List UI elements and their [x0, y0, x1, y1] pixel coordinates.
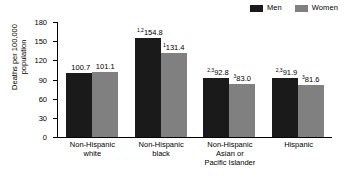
- plot-area: 1801501209060300 100.7101.11,2154.81131.…: [57, 22, 332, 137]
- bar-rect: [229, 84, 255, 137]
- bar-groups: 100.7101.11,2154.81131.42,392.8383.02,39…: [58, 22, 332, 137]
- y-tick-0: 0: [53, 137, 57, 138]
- category-label-line-1: Non-Hispanic: [58, 140, 127, 149]
- footnote-marker: 1: [163, 42, 166, 48]
- bar-pair: 2,391.9381.6: [272, 22, 324, 137]
- y-tick-label-0: 0: [25, 134, 47, 142]
- category-label-1: Non-Hispanicwhite: [58, 140, 127, 167]
- bar-pair: 2,392.8383.0: [203, 22, 255, 137]
- bar-group-1: 100.7101.1: [58, 22, 127, 137]
- y-tick-30: 30: [53, 118, 57, 119]
- bar-men-4[interactable]: 2,391.9: [272, 22, 298, 137]
- footnote-marker: 2,3: [207, 66, 214, 72]
- bar-rect: [135, 38, 161, 137]
- bar-rect: [66, 73, 92, 137]
- bar-group-3: 2,392.8383.0: [195, 22, 264, 137]
- bar-rect: [92, 72, 118, 137]
- y-tick-label-120: 120: [25, 57, 47, 65]
- bar-chart: Men Women Deaths per 100,000 population …: [0, 0, 344, 178]
- bar-value-label: 2,392.8: [207, 69, 229, 77]
- y-tick-120: 120: [53, 60, 57, 61]
- bar-value-label: 101.1: [96, 63, 115, 71]
- bar-value-label: 100.7: [71, 64, 90, 72]
- footnote-marker: 1,2: [137, 27, 144, 33]
- y-tick-90: 90: [53, 80, 57, 81]
- y-tick-label-60: 60: [25, 95, 47, 103]
- legend-item-men: Men: [250, 4, 282, 12]
- footnote-marker: 2,3: [276, 67, 283, 73]
- legend-label-women: Women: [312, 4, 338, 12]
- bar-women-3[interactable]: 383.0: [229, 22, 255, 137]
- category-label-3: Non-HispanicAsian orPacific Islander: [196, 140, 265, 167]
- category-label-line-1: Non-Hispanic: [127, 140, 196, 149]
- legend-swatch-women-icon: [295, 5, 308, 12]
- bar-value-label: 383.0: [234, 75, 251, 83]
- x-axis-category-labels: Non-HispanicwhiteNon-HispanicblackNon-Hi…: [58, 140, 333, 167]
- bar-pair: 1,2154.81131.4: [135, 22, 187, 137]
- bar-rect: [272, 78, 298, 137]
- bar-group-4: 2,391.9381.6: [264, 22, 333, 137]
- y-tick-label-180: 180: [25, 19, 47, 27]
- chart-legend: Men Women: [250, 4, 338, 12]
- bar-women-4[interactable]: 381.6: [298, 22, 324, 137]
- category-label-line-2: Asian or: [196, 149, 265, 158]
- category-label-line-1: Non-Hispanic: [196, 140, 265, 149]
- bar-value-label: 1,2154.8: [137, 29, 163, 37]
- bar-rect: [298, 85, 324, 137]
- bar-men-3[interactable]: 2,392.8: [203, 22, 229, 137]
- bar-rect: [203, 78, 229, 137]
- bar-women-1[interactable]: 101.1: [92, 22, 118, 137]
- bar-value-label: 2,391.9: [276, 69, 298, 77]
- legend-item-women: Women: [295, 4, 338, 12]
- bar-pair: 100.7101.1: [66, 22, 118, 137]
- bar-women-2[interactable]: 1131.4: [161, 22, 187, 137]
- y-tick-180: 180: [53, 22, 57, 23]
- y-tick-label-30: 30: [25, 114, 47, 122]
- y-tick-label-90: 90: [25, 76, 47, 84]
- x-axis-line: [57, 137, 332, 138]
- legend-swatch-men-icon: [250, 5, 263, 12]
- bar-value-label: 381.6: [302, 76, 319, 84]
- category-label-line-2: white: [58, 149, 127, 158]
- footnote-marker: 3: [302, 73, 305, 79]
- y-tick-60: 60: [53, 99, 57, 100]
- bar-men-1[interactable]: 100.7: [66, 22, 92, 137]
- bar-group-2: 1,2154.81131.4: [127, 22, 196, 137]
- legend-label-men: Men: [267, 4, 282, 12]
- footnote-marker: 3: [234, 72, 237, 78]
- category-label-line-3: Pacific Islander: [196, 158, 265, 167]
- y-tick-150: 150: [53, 41, 57, 42]
- category-label-2: Non-Hispanicblack: [127, 140, 196, 167]
- y-axis-title-line1: Deaths per 100,000: [10, 5, 19, 109]
- bar-value-label: 1131.4: [163, 44, 185, 52]
- bar-rect: [161, 53, 187, 137]
- y-tick-label-150: 150: [25, 38, 47, 46]
- category-label-line-2: black: [127, 149, 196, 158]
- category-label-4: Hispanic: [264, 140, 333, 167]
- category-label-line-1: Hispanic: [264, 140, 333, 149]
- bar-men-2[interactable]: 1,2154.8: [135, 22, 161, 137]
